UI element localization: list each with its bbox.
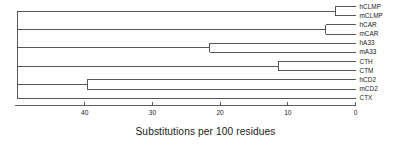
leaf-label-hcar: hCAR (360, 22, 377, 28)
axis-tick-label-10: 10 (284, 110, 291, 117)
leaf-label-mclmp: mCLMP (360, 12, 383, 18)
axis-title: Substitutions per 100 residues (0, 126, 411, 137)
axis-tick-label-30: 30 (149, 110, 156, 117)
leaf-label-ctm: CTM (360, 68, 374, 74)
leaf-label-mcd2: mCD2 (360, 86, 378, 92)
leaf-label-hclmp: hCLMP (360, 3, 382, 9)
dendrogram-figure: hCLMPmCLMPhCARmCARhA33mA33CTHCTMhCD2mCD2… (0, 0, 411, 145)
tree-branch-group (17, 7, 356, 99)
axis-tick-label-20: 20 (216, 110, 223, 117)
dendrogram-tree-svg (0, 0, 411, 145)
leaf-label-ha33: hA33 (360, 40, 375, 46)
leaf-label-ma33: mA33 (360, 49, 377, 55)
leaf-label-hcd2: hCD2 (360, 77, 377, 83)
axis-tick-label-0: 0 (354, 110, 358, 117)
leaf-label-cth: CTH (360, 58, 373, 64)
axis-group (15, 102, 356, 106)
axis-tick-label-40: 40 (81, 110, 88, 117)
leaf-label-ctx: CTX (360, 95, 373, 101)
leaf-label-mcar: mCAR (360, 31, 379, 37)
